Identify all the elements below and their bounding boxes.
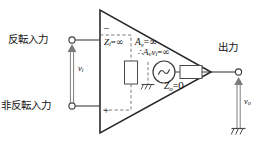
input-impedance-label: Zi=∞ bbox=[104, 38, 123, 48]
noninverting-input-terminal bbox=[69, 103, 75, 109]
zo-value: 0 bbox=[178, 80, 184, 91]
vo-subscript: o bbox=[248, 100, 251, 106]
noninverting-input-label: 非反転入力 bbox=[1, 100, 51, 111]
circuit-schematic bbox=[0, 0, 268, 144]
output-ground-hatch-1 bbox=[231, 129, 234, 135]
vi-subscript: i bbox=[82, 67, 84, 73]
output-voltage-label: vo bbox=[244, 97, 251, 106]
internal-ground-hatch-2 bbox=[145, 85, 148, 90]
output-ground-hatch-2 bbox=[236, 129, 239, 135]
output-impedance-label: Zo=0 bbox=[164, 81, 184, 92]
internal-ground-hatch-3 bbox=[149, 85, 152, 90]
op-amp-diagram: 反転入力 非反転入力 出力 − + vi vo Zi=∞ Av=∞ ∴Avvi=… bbox=[0, 0, 268, 144]
input-voltage-label: vi bbox=[78, 64, 83, 73]
avvi-value: ∞ bbox=[162, 47, 170, 57]
output-label: 出力 bbox=[218, 42, 238, 53]
inverting-input-label: 反転入力 bbox=[8, 34, 48, 45]
output-terminal bbox=[235, 69, 241, 75]
output-ground-hatch-3 bbox=[240, 129, 243, 135]
noninverting-sign: + bbox=[103, 105, 109, 116]
av-value: ∞ bbox=[149, 36, 157, 47]
vi-arrow-head bbox=[68, 44, 77, 52]
zi-value: ∞ bbox=[116, 37, 124, 47]
controlled-source-label: ∴Avvi=∞ bbox=[138, 48, 170, 58]
internal-ground-hatch-1 bbox=[141, 85, 144, 90]
inverting-input-terminal bbox=[69, 37, 75, 43]
input-impedance-resistor bbox=[125, 61, 138, 84]
inverting-sign: − bbox=[103, 23, 109, 34]
vo-arrow-head bbox=[234, 77, 243, 85]
output-impedance-resistor bbox=[180, 66, 202, 79]
